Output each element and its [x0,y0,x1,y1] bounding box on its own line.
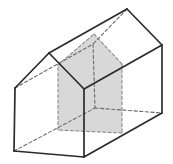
shaded-cross-section [58,34,122,133]
edge-front-roof-left [15,53,49,88]
edge-front-bottom [14,151,84,157]
house-prism-diagram [0,0,173,164]
house-prism-figure [0,0,173,164]
hidden-edge-back-roof-left [93,9,127,44]
edge-front-wall-left [14,88,15,151]
edge-back-roof-right [127,9,162,45]
